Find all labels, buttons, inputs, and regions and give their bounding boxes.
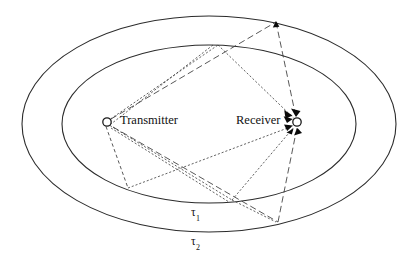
tau-2-label: τ2 <box>191 236 200 250</box>
tau-2-subscript: 2 <box>196 243 200 252</box>
path-tx-inner-bottom-mid-b <box>111 128 229 202</box>
receiver-marker[interactable] <box>293 118 301 126</box>
arrow-into-receiver-5 <box>291 109 301 118</box>
path-tx-inner-bottom-left <box>106 127 128 189</box>
path-tx-inner-top <box>111 45 219 119</box>
transmitter-label: Transmitter <box>120 114 178 127</box>
receiver-label: Receiver <box>236 114 280 127</box>
tau-1-label: τ1 <box>191 207 200 221</box>
path-outer-top-rx <box>276 22 296 118</box>
arrow-into-receiver-6 <box>294 128 302 136</box>
transmitter-marker[interactable] <box>103 118 111 126</box>
scattering-figure: Transmitter Receiver τ1 τ2 <box>0 0 411 261</box>
path-extra-converge <box>232 200 276 222</box>
tau-1-subscript: 1 <box>196 214 200 223</box>
figure-canvas <box>0 0 411 261</box>
tau-2-symbol: τ <box>191 235 196 247</box>
path-tx-inner-bottom-mid <box>110 126 232 201</box>
path-outer-bottom-rx <box>278 128 297 223</box>
tau-1-symbol: τ <box>191 206 196 218</box>
